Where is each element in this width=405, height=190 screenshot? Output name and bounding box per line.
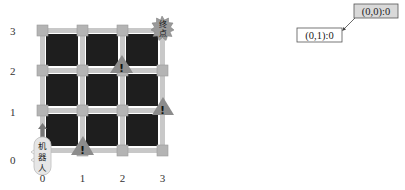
arrow-up-icon	[38, 123, 47, 137]
grid-cell	[86, 34, 118, 66]
grid-cell	[126, 114, 158, 146]
scene: ! ! ! 终 点 机 器 人 0 1 2 3 0 1 2 3	[0, 0, 405, 190]
tree-node-root: (0,0):0	[354, 4, 398, 18]
svg-text:器: 器	[38, 152, 47, 162]
svg-text:(0,1):0: (0,1):0	[305, 30, 333, 42]
svg-text:!: !	[160, 104, 165, 117]
x-tick-1: 1	[80, 172, 86, 184]
svg-text:机: 机	[38, 141, 47, 151]
x-tick-2: 2	[120, 172, 126, 184]
svg-text:!: !	[80, 144, 85, 157]
grid-cell	[86, 114, 118, 146]
tree-edge	[344, 17, 356, 29]
y-tick-1: 1	[10, 106, 16, 118]
x-tick-3: 3	[160, 172, 166, 184]
grid-cell	[46, 74, 78, 106]
y-tick-3: 3	[10, 25, 16, 37]
svg-text:(0,0):0: (0,0):0	[362, 6, 390, 18]
grid-cell	[86, 74, 118, 106]
y-tick-0: 0	[10, 154, 16, 166]
grid-cell	[46, 34, 78, 66]
x-tick-0: 0	[40, 172, 46, 184]
grid-cell	[126, 34, 158, 66]
search-tree: (0,0):0 (0,1):0	[297, 4, 398, 42]
tree-node-child: (0,1):0	[297, 28, 342, 42]
svg-text:!: !	[119, 62, 124, 75]
y-axis-labels: 0 1 2 3	[10, 25, 16, 166]
grid-cell	[126, 74, 158, 106]
grid-cell	[46, 114, 78, 146]
svg-text:点: 点	[159, 29, 167, 38]
svg-text:终: 终	[159, 19, 167, 29]
grid-map	[37, 25, 168, 156]
y-tick-2: 2	[10, 65, 16, 77]
x-axis-labels: 0 1 2 3	[40, 172, 166, 184]
